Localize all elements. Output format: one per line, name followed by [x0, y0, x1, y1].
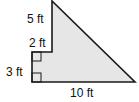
composite-shape: [32, 1, 135, 82]
label-top-vertical: 5 ft: [27, 13, 44, 25]
label-step-horizontal: 2 ft: [29, 37, 46, 49]
label-bottom-vertical: 3 ft: [6, 66, 23, 78]
label-base: 10 ft: [70, 87, 93, 99]
